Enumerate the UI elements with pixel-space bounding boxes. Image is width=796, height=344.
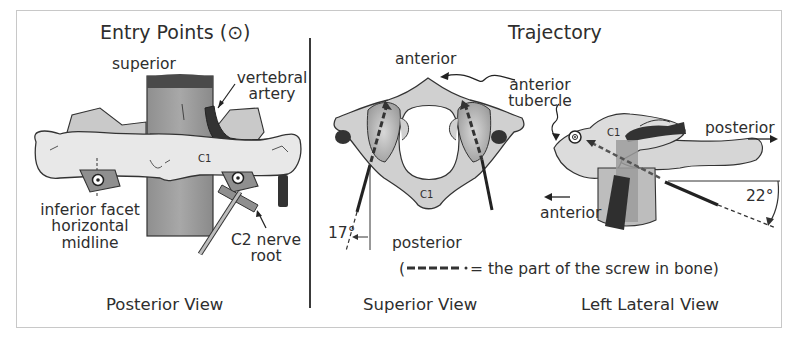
transverse-foramen-left <box>335 130 351 144</box>
label-anterior-superior-view: anterior <box>395 51 456 67</box>
label-c1-posterior: C1 <box>198 154 211 165</box>
label-c1-superior-view: C1 <box>420 190 433 201</box>
label-anterior-tubercle: anterior tubercle <box>500 77 580 110</box>
label-superior: superior <box>112 56 176 72</box>
transverse-foramen-right <box>491 130 507 144</box>
label-posterior-lateral-view: posterior <box>705 120 775 136</box>
label-inferior-facet: inferior facet horizontal midline <box>34 202 146 251</box>
entry-point-symbol-icon: (⊙) <box>220 21 251 43</box>
screw-trajectory-left-out <box>357 165 370 212</box>
c1-posterior-arch <box>35 131 301 181</box>
legend-open-paren: ( <box>399 261 405 277</box>
label-17-degrees: 17° <box>328 225 355 241</box>
label-c2-nerve-root: C2 nerve root <box>226 232 306 265</box>
screw-trajectory-lateral-out <box>665 182 718 205</box>
trajectory-title: Trajectory <box>508 23 602 43</box>
vertebral-artery-descending <box>278 175 288 207</box>
label-anterior-tubercle-line2: tubercle <box>500 93 580 109</box>
label-anterior-tubercle-line1: anterior <box>500 77 580 93</box>
posterior-view-caption: Posterior View <box>106 296 223 313</box>
label-c2-nerve-line2: root <box>226 248 306 264</box>
label-c1-lateral-view: C1 <box>607 128 620 139</box>
entry-point-marker-right <box>233 173 244 184</box>
screw-trajectory-right-out <box>482 160 492 210</box>
superior-view-caption: Superior View <box>363 296 477 313</box>
label-vertebral-artery-line1: vertebral <box>232 70 312 86</box>
label-posterior-superior-view: posterior <box>392 235 462 251</box>
label-c2-nerve-line1: C2 nerve <box>226 232 306 248</box>
label-inferior-facet-line3: midline <box>34 235 146 251</box>
legend-dash-sample <box>407 267 468 270</box>
label-22-degrees: 22° <box>746 188 773 204</box>
label-inferior-facet-line1: inferior facet <box>34 202 146 218</box>
superior-view-illustration <box>334 72 524 251</box>
label-vertebral-artery: vertebral artery <box>232 70 312 103</box>
entry-points-title-text: Entry Points <box>100 21 214 43</box>
label-inferior-facet-line2: horizontal <box>34 218 146 234</box>
entry-points-title: Entry Points (⊙) <box>100 23 250 43</box>
label-anterior-lateral-view: anterior <box>540 205 601 221</box>
entry-point-marker-lateral <box>569 131 581 143</box>
entry-point-marker-left <box>93 175 104 186</box>
lateral-view-caption: Left Lateral View <box>581 296 719 313</box>
label-vertebral-artery-line2: artery <box>232 86 312 102</box>
legend-text: = the part of the screw in bone) <box>470 261 719 277</box>
vertebral-canal <box>399 106 459 180</box>
